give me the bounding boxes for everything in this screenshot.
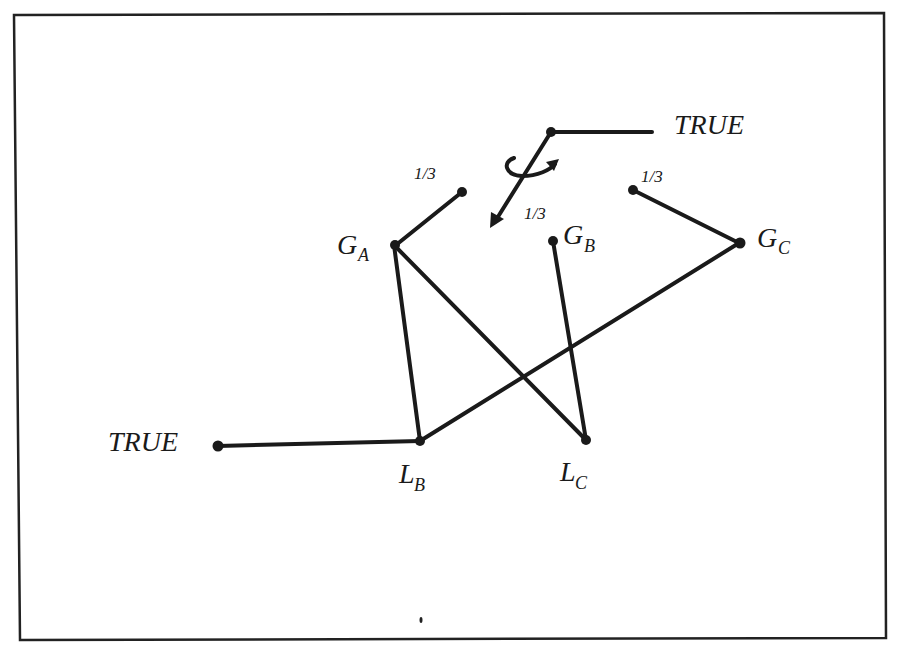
node-g-c	[735, 238, 746, 249]
svg-text:L: L	[398, 458, 415, 489]
node-l-c	[581, 435, 591, 445]
svg-text:G: G	[337, 229, 357, 260]
label-g-b: G B	[563, 219, 595, 256]
label-true-top: TRUE	[674, 109, 744, 140]
svg-text:G: G	[563, 219, 583, 250]
node-g-a	[390, 240, 400, 250]
fraction-label-mid: 1/3	[524, 204, 546, 223]
node-g-b	[548, 236, 558, 246]
label-g-c: G C	[757, 222, 791, 258]
label-l-c: L C	[559, 456, 588, 493]
svg-text:B: B	[414, 475, 425, 495]
node-stub-c	[628, 185, 638, 195]
fraction-label-a: 1/3	[414, 164, 436, 183]
figure-border	[14, 13, 886, 640]
edge-gc-stub	[633, 190, 739, 243]
node-l-b	[415, 436, 425, 446]
label-g-a: G A	[337, 229, 370, 265]
node-stub-a	[457, 187, 467, 197]
fraction-label-c: 1/3	[641, 167, 663, 186]
edge-true-lb	[218, 441, 420, 446]
label-true-left: TRUE	[108, 426, 178, 457]
label-l-b: L B	[398, 458, 425, 495]
diagram-canvas: TRUE TRUE 1/3 1/3 1/3 G A G B G C L B L …	[0, 0, 898, 654]
svg-text:C: C	[575, 473, 588, 493]
svg-text:L: L	[559, 456, 576, 487]
node-spinner	[546, 127, 556, 137]
svg-text:G: G	[757, 222, 777, 253]
node-true-left	[213, 441, 224, 452]
svg-text:B: B	[584, 236, 595, 256]
edge-ga-lb	[394, 245, 420, 441]
svg-text:C: C	[778, 238, 791, 258]
svg-text:A: A	[357, 245, 370, 265]
edge-ga-stub	[396, 192, 462, 245]
ink-speck	[420, 617, 423, 623]
